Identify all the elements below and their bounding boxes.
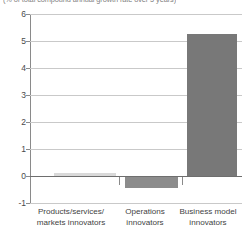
x-tick-divider-1	[119, 177, 120, 185]
gridline-neg1	[30, 203, 242, 204]
bar-products-services-markets-innovators	[54, 173, 116, 176]
y-tick-label-5: 5	[4, 37, 26, 46]
bar-operations-innovators	[125, 177, 178, 188]
y-tick-label-0: 0	[4, 172, 26, 181]
y-tick-label-2: 2	[4, 118, 26, 127]
x-axis-label-line-2: innovators	[171, 218, 245, 229]
x-axis-label-business-model-innovators: Business model innovators	[171, 207, 245, 228]
x-axis-label-line-1: Operations	[116, 207, 174, 218]
y-tick-label-4: 4	[4, 64, 26, 73]
y-tick-label-1: 1	[4, 145, 26, 154]
y-tick-label-3: 3	[4, 91, 26, 100]
y-tick-label-6: 6	[4, 10, 26, 19]
y-tick-label-neg1: -1	[4, 199, 26, 208]
plot-area	[30, 14, 242, 203]
x-axis-label-line-2: markets innovators	[28, 218, 114, 229]
bar-chart-figure: (% of total compound annual growth rate …	[0, 0, 247, 248]
gridline-6	[30, 14, 242, 15]
y-axis-tick-labels: 6 5 4 3 2 1 0 -1	[0, 0, 26, 248]
x-axis-label-operations-innovators: Operations innovators	[116, 207, 174, 228]
x-axis-label-products-services-markets-innovators: Products/services/ markets innovators	[28, 207, 114, 228]
x-tick-divider-2	[182, 177, 183, 185]
x-axis-label-line-1: Business model	[171, 207, 245, 218]
x-axis-label-line-2: innovators	[116, 218, 174, 229]
bar-business-model-innovators	[187, 34, 237, 176]
x-axis-label-line-1: Products/services/	[28, 207, 114, 218]
chart-title: (% of total compound annual growth rate …	[3, 0, 247, 4]
